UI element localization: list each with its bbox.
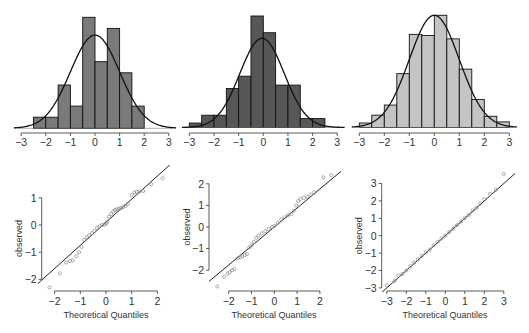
histogram-bar bbox=[120, 73, 132, 129]
y-tick-label: −2 bbox=[192, 264, 204, 276]
qq-point bbox=[299, 197, 302, 200]
qq-point bbox=[142, 189, 145, 192]
qq-point bbox=[161, 177, 164, 180]
y-tick-label: 1 bbox=[371, 212, 377, 224]
x-tick-label: 0 bbox=[431, 136, 437, 148]
histogram-bar bbox=[58, 85, 70, 128]
x-axis-title: Theoretical Quantiles bbox=[63, 310, 149, 320]
y-tick-label: 0 bbox=[371, 230, 377, 242]
qq-point bbox=[65, 261, 68, 264]
y-tick-label: 0 bbox=[198, 221, 204, 233]
qq-point bbox=[264, 230, 267, 233]
histogram-bar bbox=[239, 76, 251, 127]
histogram-bar bbox=[409, 34, 422, 127]
x-tick-label: 1 bbox=[456, 136, 462, 148]
x-tick-label: −1 bbox=[74, 295, 86, 307]
qq-point bbox=[257, 234, 260, 237]
qq-point bbox=[306, 195, 309, 198]
histogram-panel-1: −3−2−10123 bbox=[14, 17, 176, 148]
qq-point bbox=[223, 275, 226, 278]
qq-plot-panel-3: −3−2−10123−3−2−10123Theoretical Quantile… bbox=[354, 172, 516, 320]
x-tick-label: −3 bbox=[353, 136, 365, 148]
x-tick-label: 1 bbox=[117, 136, 123, 148]
x-tick-label: −3 bbox=[15, 136, 27, 148]
x-tick-label: 2 bbox=[154, 295, 160, 307]
x-tick-label: −1 bbox=[420, 295, 432, 307]
x-tick-label: 2 bbox=[481, 295, 487, 307]
histogram-bar bbox=[107, 28, 119, 128]
qq-reference-line bbox=[375, 173, 515, 298]
y-tick-label: 3 bbox=[371, 177, 377, 189]
qq-point bbox=[77, 251, 80, 254]
x-tick-label: 3 bbox=[506, 136, 512, 148]
histogram-bar bbox=[226, 88, 238, 127]
histogram-bar bbox=[70, 106, 82, 128]
x-tick-label: −2 bbox=[49, 295, 61, 307]
histogram-bar bbox=[313, 119, 325, 128]
histogram-bar bbox=[46, 117, 58, 128]
x-tick-label: 0 bbox=[271, 295, 277, 307]
y-tick-label: 1 bbox=[198, 199, 204, 211]
qq-point bbox=[75, 255, 78, 258]
histogram-bar bbox=[288, 85, 300, 127]
x-tick-label: −1 bbox=[246, 295, 258, 307]
histogram-bar bbox=[83, 17, 95, 128]
x-tick-label: −2 bbox=[208, 136, 220, 148]
x-tick-label: 1 bbox=[294, 295, 300, 307]
qq-point bbox=[216, 285, 219, 288]
qq-point bbox=[385, 284, 388, 287]
qq-point bbox=[309, 193, 312, 196]
x-tick-label: −3 bbox=[183, 136, 195, 148]
histogram-bar bbox=[397, 74, 410, 128]
qq-point bbox=[48, 286, 51, 289]
x-tick-label: 3 bbox=[334, 136, 340, 148]
x-tick-label: 0 bbox=[92, 136, 98, 148]
x-tick-label: 2 bbox=[141, 136, 147, 148]
x-tick-label: −1 bbox=[233, 136, 245, 148]
x-tick-label: −2 bbox=[223, 295, 235, 307]
y-tick-label: 0 bbox=[31, 219, 37, 231]
x-tick-label: −1 bbox=[64, 136, 76, 148]
x-tick-label: 1 bbox=[462, 295, 468, 307]
x-tick-label: −3 bbox=[381, 295, 393, 307]
y-tick-label: −2 bbox=[25, 273, 37, 285]
y-tick-label: −1 bbox=[365, 247, 377, 259]
histogram-bar bbox=[132, 106, 144, 128]
x-tick-label: −2 bbox=[378, 136, 390, 148]
y-tick-label: −1 bbox=[192, 242, 204, 254]
y-tick-label: −2 bbox=[365, 264, 377, 276]
qq-point bbox=[322, 176, 325, 179]
x-tick-label: 1 bbox=[285, 136, 291, 148]
qq-point bbox=[58, 272, 61, 275]
x-axis-title: Theoretical Quantiles bbox=[231, 310, 317, 320]
qq-plot-panel-1: −2−101−2−1012Theoretical Quantilesobserv… bbox=[14, 158, 178, 320]
qq-point bbox=[130, 193, 133, 196]
x-tick-label: −2 bbox=[40, 136, 52, 148]
histogram-bar bbox=[95, 62, 107, 129]
x-tick-label: 2 bbox=[310, 136, 316, 148]
x-tick-label: −1 bbox=[403, 136, 415, 148]
qq-point bbox=[294, 204, 297, 207]
histogram-bar bbox=[422, 35, 435, 127]
x-tick-label: 2 bbox=[481, 136, 487, 148]
qq-point bbox=[280, 218, 283, 221]
qq-point bbox=[149, 183, 152, 186]
histogram-bar bbox=[434, 15, 447, 127]
x-axis-title: Theoretical Quantiles bbox=[402, 310, 488, 320]
y-tick-label: −1 bbox=[25, 246, 37, 258]
qq-point bbox=[502, 172, 505, 175]
qq-point bbox=[252, 241, 255, 244]
histogram-and-qq-plot-grid: −3−2−10123 −3−2−10123 −3−2−10123 −2−101−… bbox=[0, 0, 529, 333]
histogram-bar bbox=[263, 33, 275, 128]
qq-point bbox=[330, 174, 333, 177]
x-tick-label: 0 bbox=[442, 295, 448, 307]
histogram-panel-2: −3−2−10123 bbox=[182, 16, 345, 148]
x-tick-label: 1 bbox=[129, 295, 135, 307]
histogram-panel-3: −3−2−10123 bbox=[352, 15, 517, 148]
y-tick-label: 1 bbox=[31, 192, 37, 204]
y-tick-label: 2 bbox=[371, 195, 377, 207]
x-tick-label: 0 bbox=[260, 136, 266, 148]
x-tick-label: 0 bbox=[103, 295, 109, 307]
histogram-bar bbox=[251, 16, 263, 128]
y-tick-label: −3 bbox=[365, 282, 377, 294]
